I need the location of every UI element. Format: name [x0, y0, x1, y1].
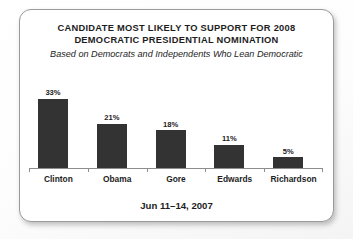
bar-slot: 21% [88, 88, 147, 168]
chart-title-line-2: DEMOCRATIC PRESIDENTIAL NOMINATION [20, 34, 333, 46]
chart-card: CANDIDATE MOST LIKELY TO SUPPORT FOR 200… [19, 9, 334, 222]
category-label-obama: Obama [88, 174, 147, 184]
bar-slot: 11% [205, 88, 264, 168]
axis-tick [147, 168, 148, 172]
bar-richardson [273, 157, 303, 168]
bar-plot-area: 33%21%18%11%5% [29, 88, 323, 168]
axis-tick [29, 168, 30, 172]
bar-slot: 18% [147, 88, 206, 168]
bar-slot: 5% [264, 88, 323, 168]
bar-value-label: 21% [97, 113, 127, 122]
category-label-row: ClintonObamaGoreEdwardsRichardson [29, 174, 323, 188]
category-label-edwards: Edwards [205, 174, 264, 184]
bar-value-label: 11% [214, 134, 244, 143]
chart-image: CANDIDATE MOST LIKELY TO SUPPORT FOR 200… [0, 0, 353, 239]
axis-tick [264, 168, 265, 172]
category-label-richardson: Richardson [264, 174, 323, 184]
bar-value-label: 5% [273, 147, 303, 156]
x-axis-line [29, 168, 323, 169]
axis-tick [205, 168, 206, 172]
chart-title-line-1: CANDIDATE MOST LIKELY TO SUPPORT FOR 200… [20, 22, 333, 34]
bar-value-label: 33% [38, 88, 68, 97]
bar-slot: 33% [29, 88, 88, 168]
category-label-clinton: Clinton [29, 174, 88, 184]
bar-clinton [38, 99, 68, 168]
bar-gore [156, 130, 186, 168]
axis-tick [322, 168, 323, 172]
category-label-gore: Gore [147, 174, 206, 184]
axis-tick [88, 168, 89, 172]
chart-title-block: CANDIDATE MOST LIKELY TO SUPPORT FOR 200… [20, 22, 333, 61]
bar-value-label: 18% [156, 120, 186, 129]
bar-obama [97, 124, 127, 168]
chart-footnote: Jun 11–14, 2007 [20, 200, 333, 211]
bar-edwards [214, 145, 244, 168]
chart-subtitle: Based on Democrats and Independents Who … [20, 47, 333, 61]
